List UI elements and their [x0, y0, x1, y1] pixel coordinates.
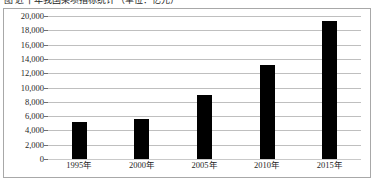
figure-caption: 图 近十年我国某项指标统计（单位：亿元） — [4, 0, 179, 6]
chart-page: 图 近十年我国某项指标统计（单位：亿元） 02,0004,0006,0008,0… — [0, 0, 375, 182]
y-axis-tickmarks — [4, 16, 48, 159]
figure-frame: 02,0004,0006,0008,00010,00012,00014,0001… — [3, 8, 371, 178]
x-axis-labels: 1995年2000年2005年2010年2015年 — [48, 161, 361, 175]
gridline — [48, 30, 361, 31]
gridline — [48, 16, 361, 17]
plot-area — [48, 16, 361, 159]
bar — [197, 95, 212, 159]
bar — [134, 119, 149, 159]
x-axis-tick-label: 2000年 — [129, 161, 155, 170]
x-axis-tick-label: 2005年 — [192, 161, 218, 170]
gridline — [48, 88, 361, 89]
gridline — [48, 73, 361, 74]
gridline — [48, 45, 361, 46]
bar — [260, 65, 275, 159]
gridline — [48, 59, 361, 60]
bar — [72, 122, 87, 159]
x-axis-tick-label: 1995年 — [66, 161, 92, 170]
bar — [322, 21, 337, 159]
figure-caption-strip: 图 近十年我国某项指标统计（单位：亿元） — [0, 0, 375, 7]
x-axis-tick-label: 2015年 — [317, 161, 343, 170]
x-axis-tick-label: 2010年 — [254, 161, 280, 170]
